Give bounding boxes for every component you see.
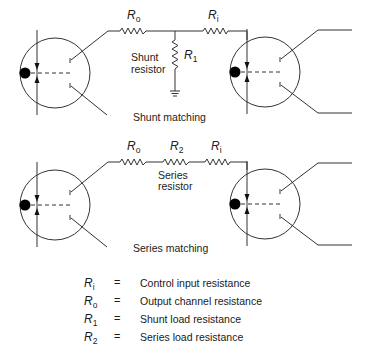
shunt-resistor-label-line1: Shunt [131,52,158,63]
series-resistor-label-line2: resistor [158,181,192,192]
legend: Ri = Control input resistance Ro = Outpu… [84,276,324,348]
resistor-ri-series [205,159,230,165]
legend-equals: = [114,276,120,288]
legend-row-ri: Ri = Control input resistance [84,276,324,294]
label-ro-series: Ro [127,139,140,155]
series-matching-caption: Series matching [133,243,208,254]
resistor-r2-series [163,159,189,165]
legend-row-ro: Ro = Output channel resistance [84,294,324,312]
shunt-resistor-label-line2: resistor [131,64,165,75]
legend-row-r1: R1 = Shunt load resistance [84,312,324,330]
legend-equals: = [114,330,120,342]
resistor-ri-shunt [203,28,228,34]
resistor-ro-series [120,159,146,165]
series-right-device [230,161,353,246]
legend-description: Output channel resistance [140,295,262,307]
legend-description: Series load resistance [140,331,243,343]
legend-symbol: R2 [84,330,97,346]
shunt-left-device [20,30,109,115]
legend-symbol: R1 [84,312,97,328]
legend-description: Shunt load resistance [140,313,241,325]
shunt-matching-caption: Shunt matching [133,112,206,123]
label-r2-series: R2 [170,139,183,155]
legend-equals: = [114,312,120,324]
series-left-device [20,162,109,247]
label-ri-shunt: Ri [208,8,219,24]
legend-symbol: Ro [84,294,97,310]
legend-row-r2: R2 = Series load resistance [84,330,324,348]
legend-description: Control input resistance [140,277,250,289]
label-ri-series: Ri [211,139,222,155]
label-ro-shunt: Ro [127,8,140,24]
shunt-main-line [108,28,247,40]
shunt-resistor-r1 [170,31,180,96]
resistor-ro-shunt [120,28,146,34]
legend-symbol: Ri [84,276,95,292]
legend-equals: = [114,294,120,306]
shunt-right-device [230,29,353,114]
label-r1-shunt: R1 [184,48,197,64]
